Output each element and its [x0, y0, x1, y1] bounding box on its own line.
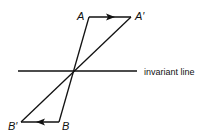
label-A-prime: A′ — [134, 10, 145, 22]
label-A: A — [76, 10, 84, 22]
label-B-prime: B′ — [8, 120, 18, 132]
label-B: B — [62, 120, 69, 132]
segment-A-B — [59, 17, 89, 122]
segment-Aprime-Bprime — [21, 17, 131, 122]
invariant-line-label: invariant line — [144, 67, 195, 77]
shear-diagram: A A′ B B′ invariant line — [0, 0, 215, 140]
